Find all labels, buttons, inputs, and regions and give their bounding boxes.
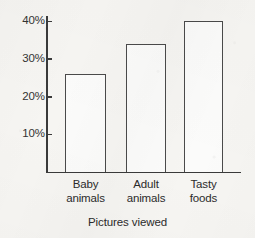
y-axis-line: [46, 16, 48, 173]
bar-chart: 40% 30% 20% 10% Baby animals Adult anima…: [0, 0, 255, 238]
category-label-baby-animals-line2: animals: [55, 192, 116, 206]
y-tick-mark-40: [48, 21, 52, 23]
category-label-adult-animals-line1: Adult: [133, 178, 158, 190]
y-tick-label-10: 10%: [22, 128, 45, 140]
x-axis-title: Pictures viewed: [0, 216, 255, 229]
category-label-tasty-foods-line1: Tasty: [190, 178, 216, 190]
bar-tasty-foods: [184, 21, 223, 172]
y-tick-mark-10: [48, 134, 52, 136]
y-tick-label-20: 20%: [22, 91, 45, 103]
y-tick-label-40: 40%: [22, 15, 45, 27]
category-label-baby-animals: Baby animals: [55, 178, 116, 205]
y-tick-mark-20: [48, 96, 52, 98]
y-tick-label-30: 30%: [22, 53, 45, 65]
category-label-tasty-foods-line2: foods: [174, 192, 233, 206]
bar-adult-animals: [126, 44, 166, 172]
category-label-adult-animals-line2: animals: [115, 192, 177, 206]
category-label-baby-animals-line1: Baby: [73, 178, 99, 190]
x-axis-line: [46, 172, 241, 174]
bar-baby-animals: [65, 74, 106, 172]
category-label-tasty-foods: Tasty foods: [174, 178, 233, 205]
category-label-adult-animals: Adult animals: [115, 178, 177, 205]
y-tick-mark-30: [48, 58, 52, 60]
